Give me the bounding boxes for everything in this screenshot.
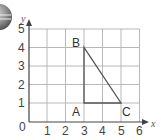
x-tick: 0 <box>19 120 26 134</box>
globe-sphere-icon <box>0 4 12 30</box>
x-tick: 2 <box>62 124 69 138</box>
point-label-a: A <box>72 105 80 119</box>
point-label-b: B <box>72 36 80 50</box>
point-label-c: C <box>122 105 131 119</box>
x-tick: 4 <box>99 124 106 138</box>
coordinate-diagram: y x 0 1 2 3 4 5 6 1 2 3 4 5 B A C <box>0 0 161 140</box>
y-tick: 2 <box>18 78 25 92</box>
y-tick: 3 <box>18 59 25 73</box>
x-tick: 5 <box>118 124 125 138</box>
y-tick: 1 <box>18 96 25 110</box>
x-axis-label: x <box>150 118 156 129</box>
x-tick: 1 <box>44 124 51 138</box>
y-tick: 4 <box>18 41 25 55</box>
y-tick: 5 <box>18 22 25 36</box>
x-tick: 3 <box>81 124 88 138</box>
x-tick: 6 <box>136 124 143 138</box>
